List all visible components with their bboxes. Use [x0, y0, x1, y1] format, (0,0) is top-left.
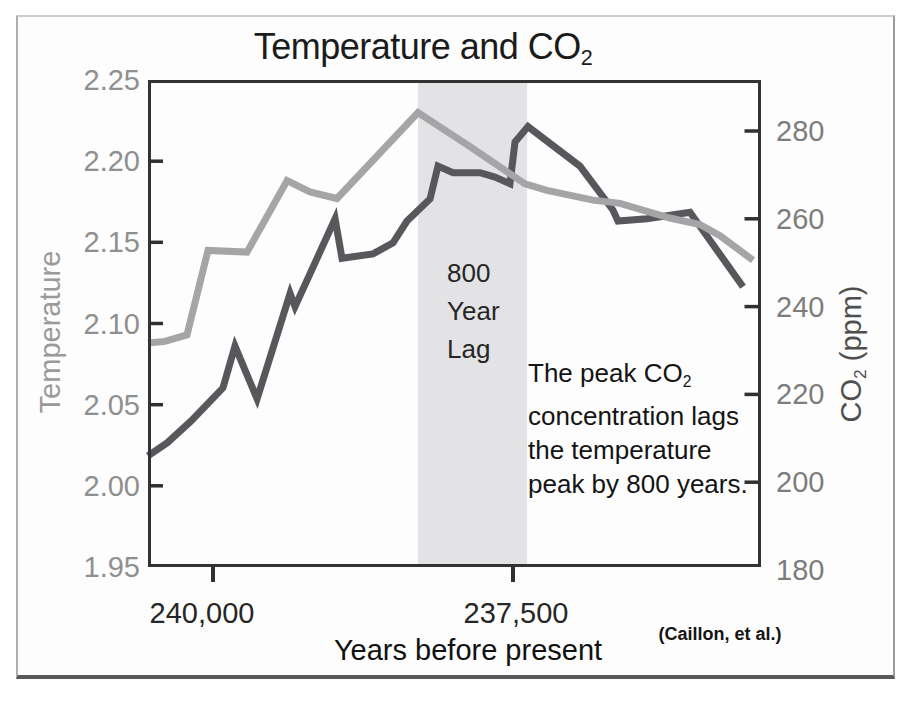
chart-title-text: Temperature and CO	[254, 26, 581, 67]
y-left-tick-label: 2.00	[84, 470, 140, 503]
annotation-line: the temperature	[528, 433, 748, 467]
annotation-line: peak by 800 years.	[528, 467, 748, 501]
y-right-tick-label: 240	[776, 291, 824, 324]
x-tick-label: 240,000	[150, 597, 255, 630]
right-axis-label-unit: (ppm)	[835, 286, 867, 370]
lag-band-label-line: 800	[447, 254, 500, 292]
annotation-line: concentration lags	[528, 399, 748, 433]
title-subscript: 2	[581, 45, 593, 70]
lag-band-label-line: Lag	[447, 330, 500, 368]
y-right-tick-label: 220	[776, 378, 824, 411]
x-axis-label: Years before present	[334, 634, 602, 667]
left-axis-label: Temperature	[34, 251, 67, 414]
annotation: The peak CO2 concentration lags the temp…	[528, 356, 748, 501]
y-right-tick-label: 260	[776, 203, 824, 236]
x-tick-label: 237,500	[464, 597, 569, 630]
bottom-ticks	[213, 567, 513, 582]
y-left-tick-label: 2.25	[84, 64, 140, 97]
y-left-tick-label: 2.10	[84, 308, 140, 341]
source-credit: (Caillon, et al.)	[658, 624, 781, 645]
right-axis-label: CO2 (ppm)	[835, 286, 871, 423]
annotation-subscript: 2	[683, 373, 692, 390]
right-axis-label-subscript: 2	[850, 369, 870, 379]
lag-band-label: 800 Year Lag	[447, 254, 500, 368]
lag-band-label-line: Year	[447, 292, 500, 330]
chart-title: Temperature and CO2	[254, 26, 593, 71]
y-left-tick-label: 2.05	[84, 389, 140, 422]
y-left-tick-label: 2.15	[84, 226, 140, 259]
figure: Temperature and CO2 2.25 2.20 2.15 2.10 …	[0, 0, 913, 707]
y-right-tick-label: 280	[776, 115, 824, 148]
left-ticks	[150, 161, 163, 486]
y-right-tick-label: 180	[776, 554, 824, 587]
right-axis-label-text: CO	[835, 379, 867, 423]
annotation-line-text: The peak CO	[528, 358, 683, 388]
annotation-line: The peak CO2	[528, 356, 748, 399]
y-right-tick-label: 200	[776, 466, 824, 499]
y-left-tick-label: 2.20	[84, 145, 140, 178]
y-left-tick-label: 1.95	[84, 551, 140, 584]
